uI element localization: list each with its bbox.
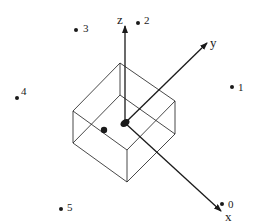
point-1: 1 [230,81,244,93]
point-label: 1 [238,81,244,93]
point-dot [74,28,78,32]
point-label: 0 [228,198,234,210]
cube-edge [73,95,120,143]
x-axis-label: x [225,209,232,222]
axes [125,26,221,211]
point-5: 5 [59,201,73,213]
point-label: 2 [144,14,150,26]
cube-edge [127,134,175,182]
cube-edge [73,143,127,182]
z-axis-label: z [117,12,123,27]
cube-edge [73,63,120,111]
point-label: 3 [83,22,89,34]
point-3: 3 [74,22,89,34]
point-label: 4 [21,85,27,97]
y-axis-arrow [125,43,207,123]
point-label: 5 [67,201,73,213]
point-dot [220,202,224,206]
y-axis-label: y [210,35,217,50]
inner-point-marker [101,127,107,133]
point-dot [230,85,234,89]
point-dot [136,21,140,25]
point-dot [15,96,19,100]
point-2: 2 [136,14,150,26]
cube-axes-diagram: z y x 0 1 2 3 4 5 [0,0,259,222]
cube-edge [127,101,175,150]
cube-edge [73,111,127,150]
point-dot [59,207,63,211]
point-4: 4 [15,85,27,100]
